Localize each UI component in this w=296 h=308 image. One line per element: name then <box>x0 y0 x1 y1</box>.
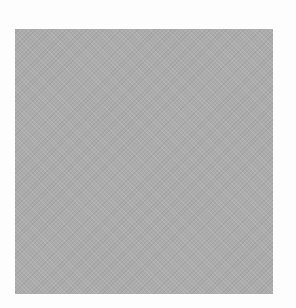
gray-halftone-square <box>15 29 273 294</box>
